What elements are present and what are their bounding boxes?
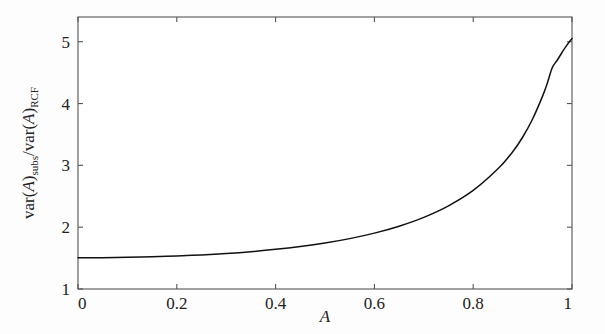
line-chart: 00.20.40.60.81 12345 A var(A)subs/var(A)… — [0, 0, 605, 334]
plot-frame — [78, 17, 572, 289]
figure-canvas: 00.20.40.60.81 12345 A var(A)subs/var(A)… — [0, 0, 605, 334]
tick-label: 1 — [564, 294, 573, 313]
tick-label: 1 — [62, 280, 71, 299]
tick-label: 3 — [62, 156, 71, 175]
tick-label: 0.8 — [463, 294, 484, 313]
tick-label: 4 — [62, 95, 71, 114]
tick-label: 0.6 — [364, 294, 385, 313]
tick-label: 0.4 — [265, 294, 287, 313]
tick-label: 5 — [62, 33, 71, 52]
tick-label: 0 — [78, 294, 87, 313]
x-axis-title: A — [319, 307, 331, 326]
ylabel-var1-arg: A — [19, 181, 38, 193]
svg-text:var(A)subs/var(A)RCF: var(A)subs/var(A)RCF — [19, 87, 40, 219]
tick-label: 2 — [62, 218, 71, 237]
ylabel-var1-subscript: subs — [28, 156, 40, 176]
tick-label: 0.2 — [166, 294, 187, 313]
ylabel-var2-subscript: RCF — [28, 87, 40, 108]
ylabel-var1: var( — [19, 191, 38, 219]
y-tick-labels: 12345 — [62, 33, 71, 299]
ylabel-var2: var( — [19, 124, 38, 152]
y-axis-title: var(A)subs/var(A)RCF — [19, 87, 40, 219]
ylabel-var2-arg: A — [19, 113, 38, 125]
